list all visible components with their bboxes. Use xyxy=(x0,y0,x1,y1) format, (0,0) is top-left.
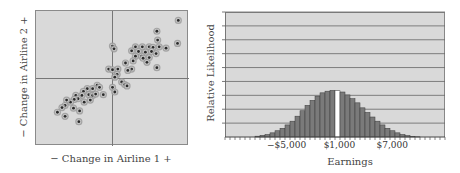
x-tick-label: $1,000 xyxy=(324,140,356,150)
histogram-bar xyxy=(315,96,320,137)
scatter-point xyxy=(122,59,129,66)
scatter-point xyxy=(130,57,137,64)
histogram-bar xyxy=(380,125,385,137)
histogram-bar xyxy=(340,92,345,137)
scatter-point xyxy=(175,17,182,24)
histogram-bar xyxy=(395,133,400,137)
scatter-point xyxy=(54,109,61,116)
scatter-point xyxy=(143,59,150,66)
histogram-bar xyxy=(330,90,335,137)
scatter-point xyxy=(61,113,68,120)
scatter-point xyxy=(162,45,169,52)
histogram-bar xyxy=(310,100,315,137)
scatter-point xyxy=(153,64,160,71)
scatter-point xyxy=(110,45,117,52)
scatter-point xyxy=(100,91,107,98)
histogram-bar xyxy=(375,121,380,137)
histogram-x-axis-label: Earnings xyxy=(327,156,373,167)
scatter-plot xyxy=(35,10,188,145)
scatter-point xyxy=(124,67,131,74)
histogram-bar xyxy=(390,131,395,137)
histogram-y-axis-label: Relative Likelihood xyxy=(205,24,216,122)
scatter-point xyxy=(154,36,161,43)
histogram-bar xyxy=(345,95,350,137)
scatter-point xyxy=(156,43,163,50)
scatter-point xyxy=(174,40,181,47)
histogram-bar xyxy=(365,112,370,137)
scatter-point xyxy=(81,99,88,106)
histogram-plot xyxy=(225,12,445,137)
histogram-bar xyxy=(305,105,310,137)
scatter-canvas xyxy=(36,11,189,146)
histogram-bar xyxy=(280,128,285,137)
scatter-point xyxy=(76,107,83,114)
histogram-bar xyxy=(325,91,330,137)
histogram-bar xyxy=(270,133,275,137)
histogram-bar xyxy=(295,116,300,137)
histogram-canvas xyxy=(225,12,445,137)
histogram-bar xyxy=(385,128,390,137)
histogram-bar xyxy=(350,99,355,137)
scatter-point xyxy=(153,50,160,57)
scatter-point xyxy=(96,84,103,91)
x-tick-label: $7,000 xyxy=(376,140,408,150)
scatter-x-axis-label: − Change in Airline 1 + xyxy=(50,153,171,164)
scatter-point xyxy=(111,74,118,81)
histogram-bar xyxy=(355,103,360,137)
histogram-bar xyxy=(335,91,340,137)
histogram-bar xyxy=(285,125,290,137)
scatter-point xyxy=(123,82,130,89)
histogram-bar xyxy=(275,131,280,137)
scatter-point xyxy=(153,28,160,35)
histogram-bar xyxy=(290,121,295,137)
scatter-point xyxy=(75,118,82,125)
scatter-point xyxy=(111,88,118,95)
histogram-bar xyxy=(320,93,325,137)
x-tick-label: −$5,000 xyxy=(267,140,306,150)
histogram-bar xyxy=(370,117,375,137)
scatter-point xyxy=(92,90,99,97)
histogram-bar xyxy=(360,108,365,137)
histogram-bar xyxy=(300,111,305,137)
scatter-y-axis-label: − Change in Airline 2 + xyxy=(18,16,29,137)
scatter-point xyxy=(87,97,94,104)
scatter-point xyxy=(70,105,77,112)
